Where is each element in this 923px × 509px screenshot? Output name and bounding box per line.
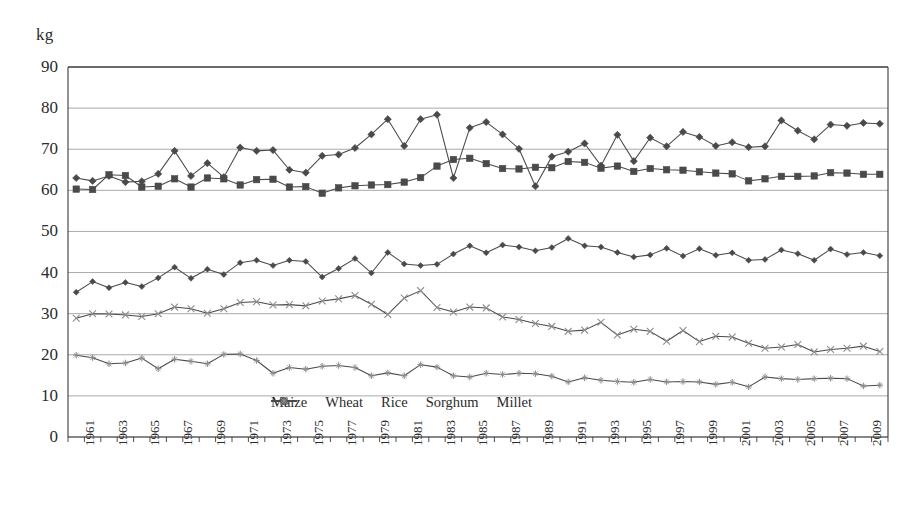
data-point-marker xyxy=(598,244,604,250)
data-point-marker xyxy=(532,248,538,254)
series-sorghum xyxy=(73,287,883,355)
data-point-marker xyxy=(762,176,768,182)
series-line xyxy=(76,158,880,193)
series-wheat xyxy=(73,235,883,295)
data-point-marker xyxy=(827,375,833,381)
data-point-marker xyxy=(270,263,276,269)
data-point-marker xyxy=(598,165,604,171)
data-point-marker xyxy=(352,364,358,370)
data-point-marker xyxy=(630,158,637,165)
series-line xyxy=(76,238,880,292)
data-point-marker xyxy=(270,176,276,182)
series-millet xyxy=(73,351,883,390)
data-point-marker xyxy=(647,165,653,171)
data-point-marker xyxy=(483,370,489,376)
x-tick-label: 2007 xyxy=(836,420,852,446)
chart-legend: MaizeWheatRiceSorghumMillet xyxy=(270,394,532,411)
data-point-marker xyxy=(270,370,276,376)
data-point-marker xyxy=(368,301,375,308)
data-point-marker xyxy=(778,247,784,253)
data-point-marker xyxy=(598,319,605,326)
data-point-marker xyxy=(450,251,456,257)
data-point-marker xyxy=(696,169,702,175)
data-point-marker xyxy=(664,245,670,251)
data-point-marker xyxy=(795,376,801,382)
data-point-marker xyxy=(319,190,325,196)
data-point-marker xyxy=(417,174,423,180)
data-point-marker xyxy=(549,244,555,250)
data-point-marker xyxy=(746,257,752,263)
data-point-marker xyxy=(122,172,128,178)
data-point-marker xyxy=(614,163,620,169)
data-point-marker xyxy=(827,169,833,175)
data-point-marker xyxy=(73,315,80,322)
legend-label: Wheat xyxy=(324,394,363,411)
x-tick-label: 1983 xyxy=(443,420,459,446)
x-tick-label: 2009 xyxy=(869,420,885,446)
data-point-marker xyxy=(253,176,259,182)
data-point-marker xyxy=(90,279,96,285)
data-point-marker xyxy=(860,383,866,389)
y-tick-label: 70 xyxy=(24,139,58,159)
data-point-marker xyxy=(171,356,177,362)
data-point-marker xyxy=(467,155,473,161)
data-point-marker xyxy=(844,251,850,257)
series-line xyxy=(76,354,880,387)
y-tick-label: 30 xyxy=(24,304,58,324)
data-point-marker xyxy=(860,249,866,255)
x-tick-label: 1999 xyxy=(705,420,721,446)
legend-item-wheat[interactable]: Wheat xyxy=(324,394,363,411)
data-point-marker xyxy=(204,175,210,181)
data-point-marker xyxy=(877,253,883,259)
data-point-marker xyxy=(450,309,457,316)
x-tick-label: 2005 xyxy=(803,420,819,446)
data-point-marker xyxy=(516,244,522,250)
legend-item-sorghum[interactable]: Sorghum xyxy=(425,394,479,411)
data-point-marker xyxy=(155,170,162,177)
data-point-marker xyxy=(565,158,571,164)
data-point-marker xyxy=(89,354,95,360)
legend-item-rice[interactable]: Rice xyxy=(380,394,408,411)
data-point-marker xyxy=(171,147,178,154)
data-point-marker xyxy=(631,168,637,174)
data-point-marker xyxy=(122,179,129,186)
data-point-marker xyxy=(532,164,538,170)
data-point-marker xyxy=(876,120,883,127)
data-point-marker xyxy=(401,373,407,379)
data-point-marker xyxy=(237,144,244,151)
data-point-marker xyxy=(729,250,735,256)
data-point-marker xyxy=(434,261,440,267)
data-point-marker xyxy=(188,184,194,190)
data-point-marker xyxy=(598,377,604,383)
data-point-marker xyxy=(729,139,736,146)
data-point-marker xyxy=(631,379,637,385)
data-point-marker xyxy=(582,243,588,249)
x-tick-label: 1989 xyxy=(541,420,557,446)
data-point-marker xyxy=(434,304,441,311)
data-point-marker xyxy=(548,153,555,160)
data-point-marker xyxy=(696,379,702,385)
data-point-marker xyxy=(467,374,473,380)
y-tick-label: 40 xyxy=(24,263,58,283)
data-point-marker xyxy=(680,253,686,259)
star-icon xyxy=(270,394,298,408)
data-point-marker xyxy=(877,382,883,388)
data-point-marker xyxy=(73,352,79,358)
data-point-marker xyxy=(516,166,522,172)
data-point-marker xyxy=(663,167,669,173)
data-point-marker xyxy=(221,176,227,182)
data-point-marker xyxy=(499,165,505,171)
data-point-marker xyxy=(614,332,621,339)
series-line xyxy=(76,291,880,352)
x-tick-label: 1993 xyxy=(607,420,623,446)
data-point-marker xyxy=(647,376,653,382)
data-point-marker xyxy=(565,235,571,241)
data-point-marker xyxy=(680,167,686,173)
legend-item-millet[interactable]: Millet xyxy=(496,394,532,411)
data-point-marker xyxy=(171,176,177,182)
data-point-marker xyxy=(614,249,620,255)
legend-label: Rice xyxy=(380,394,408,411)
data-point-marker xyxy=(631,254,637,260)
data-point-marker xyxy=(155,183,161,189)
data-point-marker xyxy=(729,379,735,385)
